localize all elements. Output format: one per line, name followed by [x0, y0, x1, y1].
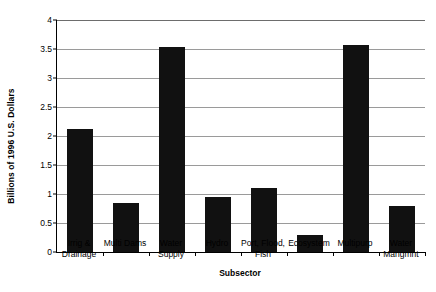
y-axis-tick-label: 3.5 [40, 44, 52, 54]
y-axis-tick-label: 0.5 [40, 218, 52, 228]
bar[interactable] [67, 129, 93, 252]
x-axis-tick-label-line: Multi Dams [102, 238, 148, 249]
y-axis-tick-label: 2 [47, 131, 52, 141]
bar-slot [333, 20, 379, 252]
bar-slot [195, 20, 241, 252]
bar-slot [287, 20, 333, 252]
x-axis-title: Subsector [56, 268, 424, 278]
x-axis-tick-label: Ecosystem [286, 238, 332, 249]
x-axis-tick-label: Multi Dams [102, 238, 148, 249]
bar-slot [241, 20, 287, 252]
x-axis-tick-label-line: Drainage [56, 249, 102, 260]
x-axis-tick-label-line: Fish [240, 249, 286, 260]
x-axis-tick-label: WaterSupply [148, 238, 194, 259]
bars-group [57, 20, 425, 252]
bar[interactable] [343, 45, 369, 252]
bar-slot [379, 20, 425, 252]
x-axis-tick-label-line: Port, Flood, [240, 238, 286, 249]
x-axis-tick-label-line: Water [378, 238, 424, 249]
bar-slot [103, 20, 149, 252]
x-axis-tick-label-line: Ecosystem [286, 238, 332, 249]
bar-chart-figure: Billions of 1996 U.S. Dollars 00.511.522… [0, 0, 436, 292]
y-axis-title: Billions of 1996 U.S. Dollars [0, 0, 22, 292]
x-axis-tick-label: Irrig &Drainage [56, 238, 102, 259]
x-axis-tick-label: Multipurp [332, 238, 378, 249]
y-axis-tick-label: 4 [47, 15, 52, 25]
bar-slot [149, 20, 195, 252]
x-axis-tick-label-line: Hydro [194, 238, 240, 249]
x-axis-tick-mark [287, 252, 288, 256]
y-axis-tick-label: 2.5 [40, 102, 52, 112]
x-axis-tick-label: Hydro [194, 238, 240, 249]
x-axis-tick-label-line: Water [148, 238, 194, 249]
x-axis-tick-mark [425, 252, 426, 256]
bar-slot [57, 20, 103, 252]
x-axis-tick-label-line: Mangmnt [378, 249, 424, 260]
x-axis-tick-label-line: Multipurp [332, 238, 378, 249]
x-axis-tick-mark [103, 252, 104, 256]
x-axis-tick-label-line: Supply [148, 249, 194, 260]
x-axis-tick-mark [333, 252, 334, 256]
x-axis-tick-mark [195, 252, 196, 256]
y-axis-tick-label: 3 [47, 73, 52, 83]
y-axis-tick-label: 1.5 [40, 160, 52, 170]
x-axis-tick-label: WaterMangmnt [378, 238, 424, 259]
y-axis-tick-label: 1 [47, 189, 52, 199]
x-axis-tick-label: Port, Flood,Fish [240, 238, 286, 259]
plot-area: 00.511.522.533.54 [56, 20, 425, 253]
y-axis-tick-label: 0 [47, 247, 52, 257]
x-axis-tick-label-line: Irrig & [56, 238, 102, 249]
bar[interactable] [159, 47, 185, 252]
